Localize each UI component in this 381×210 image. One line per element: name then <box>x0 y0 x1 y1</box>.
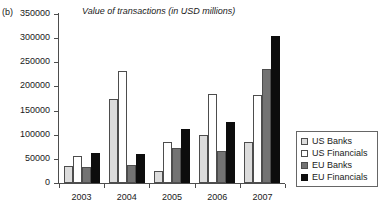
x-axis-category-label: 2005 <box>149 192 194 203</box>
bar-2007-eu-financials <box>271 36 280 183</box>
bar-2004-eu-financials <box>136 154 145 183</box>
chart-legend: US BanksUS FinancialsEU BanksEU Financia… <box>296 131 378 187</box>
y-axis-tick-mark <box>54 183 58 184</box>
legend-label: US Banks <box>312 136 352 147</box>
x-axis-category-label: 2003 <box>59 192 104 203</box>
panel-label: (b) <box>2 7 13 17</box>
x-axis-line <box>58 183 285 184</box>
legend-swatch-icon <box>301 162 308 169</box>
x-axis-tick-mark <box>195 184 196 188</box>
legend-item-us-financials[interactable]: US Financials <box>301 147 373 159</box>
bar-2003-eu-financials <box>91 153 100 183</box>
y-axis-tick-label: 0 <box>45 177 50 188</box>
bar-2006-eu-banks <box>217 151 226 183</box>
legend-item-eu-financials[interactable]: EU Financials <box>301 171 373 183</box>
bar-2003-us-banks <box>64 166 73 183</box>
y-axis-tick-mark <box>54 135 58 136</box>
bar-2005-eu-banks <box>172 148 181 183</box>
x-axis-category-label: 2006 <box>195 192 240 203</box>
bar-2006-us-financials <box>208 94 217 183</box>
legend-item-eu-banks[interactable]: EU Banks <box>301 159 373 171</box>
x-axis-tick-mark <box>240 184 241 188</box>
bar-2004-us-financials <box>118 71 127 183</box>
bar-2007-us-banks <box>244 142 253 183</box>
bar-2007-eu-banks <box>262 69 271 183</box>
x-axis-tick-mark <box>59 184 60 188</box>
x-axis-category-label: 2004 <box>104 192 149 203</box>
y-axis-tick-label: 350000 <box>20 8 50 19</box>
y-axis-tick-label: 150000 <box>20 105 50 116</box>
legend-swatch-icon <box>301 138 308 145</box>
bar-2005-us-financials <box>163 142 172 183</box>
legend-item-us-banks[interactable]: US Banks <box>301 135 373 147</box>
figure-panel-b: (b) Value of transactions (in USD millio… <box>0 0 381 210</box>
y-axis-tick-label: 300000 <box>20 32 50 43</box>
x-axis-tick-mark <box>149 184 150 188</box>
y-axis-tick-label: 50000 <box>25 153 50 164</box>
y-axis-tick-mark <box>54 14 58 15</box>
bar-2005-eu-financials <box>181 129 190 183</box>
x-axis-category-label: 2007 <box>240 192 285 203</box>
y-axis-tick-mark <box>54 38 58 39</box>
x-axis-tick-mark <box>104 184 105 188</box>
bar-2005-us-banks <box>154 171 163 183</box>
y-axis-tick-mark <box>54 86 58 87</box>
bar-2007-us-financials <box>253 95 262 183</box>
legend-swatch-icon <box>301 150 308 157</box>
y-axis-tick-label: 250000 <box>20 56 50 67</box>
legend-label: EU Banks <box>312 160 352 171</box>
bar-2004-us-banks <box>109 99 118 183</box>
y-axis-tick-mark <box>54 159 58 160</box>
legend-label: US Financials <box>312 148 368 159</box>
bar-2006-eu-financials <box>226 122 235 183</box>
plot-area <box>59 14 285 183</box>
y-axis-tick-mark <box>54 62 58 63</box>
x-axis-tick-mark <box>285 184 286 188</box>
y-axis-tick-mark <box>54 111 58 112</box>
bar-2003-us-financials <box>73 156 82 183</box>
legend-swatch-icon <box>301 174 308 181</box>
bar-2006-us-banks <box>199 135 208 183</box>
y-axis-tick-label: 200000 <box>20 80 50 91</box>
bar-2004-eu-banks <box>127 165 136 183</box>
y-axis-tick-label: 100000 <box>20 129 50 140</box>
legend-label: EU Financials <box>312 172 368 183</box>
bar-2003-eu-banks <box>82 167 91 183</box>
